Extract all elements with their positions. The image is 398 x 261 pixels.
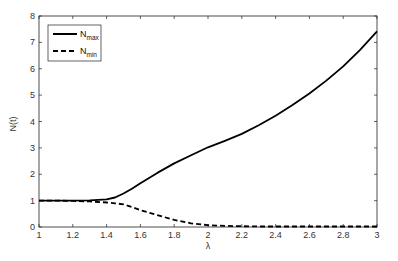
x-tick-label: 1.2 bbox=[67, 230, 80, 240]
x-tick-label: 2 bbox=[205, 230, 210, 240]
y-tick-label: 8 bbox=[30, 11, 35, 21]
y-tick-label: 0 bbox=[30, 222, 35, 232]
x-tick-label: 1.4 bbox=[100, 230, 113, 240]
x-tick-label: 1 bbox=[36, 230, 41, 240]
x-tick-label: 2.6 bbox=[303, 230, 316, 240]
legend: Nmax Nmin bbox=[48, 25, 101, 61]
y-tick-label: 5 bbox=[30, 90, 35, 100]
x-axis-label: λ bbox=[206, 241, 211, 251]
y-tick-label: 7 bbox=[30, 37, 35, 47]
x-tick-label: 2.4 bbox=[269, 230, 282, 240]
y-tick-label: 1 bbox=[30, 196, 35, 206]
y-tick-label: 4 bbox=[30, 117, 35, 127]
y-axis-label: N(t) bbox=[8, 117, 18, 132]
x-tick-label: 2.2 bbox=[236, 230, 249, 240]
x-tick-label: 2.8 bbox=[337, 230, 350, 240]
x-tick-label: 1.8 bbox=[168, 230, 181, 240]
x-tick-label: 1.6 bbox=[134, 230, 147, 240]
line-chart: 012345678 11.21.41.61.822.22.42.62.83 N(… bbox=[0, 0, 398, 261]
x-tick-label: 3 bbox=[374, 230, 379, 240]
y-tick-label: 2 bbox=[30, 169, 35, 179]
y-tick-label: 6 bbox=[30, 64, 35, 74]
y-tick-label: 3 bbox=[30, 143, 35, 153]
